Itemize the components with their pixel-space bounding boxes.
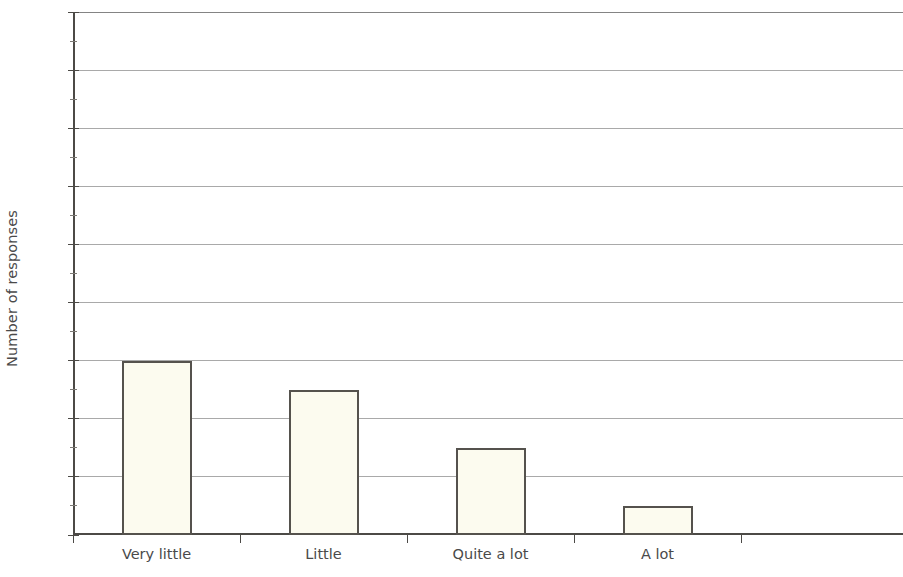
y-axis-tick: [68, 128, 79, 129]
gridline: [73, 302, 903, 303]
x-axis-tick: [73, 534, 74, 543]
x-axis-tick: [574, 534, 575, 543]
y-axis-tick: [68, 244, 79, 245]
y-axis-tick: [68, 186, 79, 187]
y-axis-minor-tick: [70, 389, 77, 390]
x-axis-tick-label: A lot: [641, 546, 674, 562]
x-axis-tick: [407, 534, 408, 543]
gridline: [73, 70, 903, 71]
x-axis-tick: [240, 534, 241, 543]
gridline: [73, 186, 903, 187]
gridline: [73, 128, 903, 129]
y-axis-title: Number of responses: [0, 0, 24, 577]
x-axis-tick: [741, 534, 742, 543]
y-axis-minor-tick: [70, 99, 77, 100]
y-axis-tick: [68, 302, 79, 303]
y-axis-minor-tick: [70, 157, 77, 158]
y-axis-minor-tick: [70, 447, 77, 448]
bar: [122, 361, 192, 535]
y-axis-tick: [68, 418, 79, 419]
plot-area: 024681012141618: [73, 12, 903, 535]
y-axis-tick: [68, 12, 79, 13]
bar: [456, 448, 526, 535]
y-axis-minor-tick: [70, 215, 77, 216]
bar-chart: Number of responses 024681012141618 Very…: [0, 0, 903, 577]
x-axis-tick-label: Little: [305, 546, 341, 562]
y-axis-minor-tick: [70, 331, 77, 332]
bar: [289, 390, 359, 535]
y-axis-minor-tick: [70, 273, 77, 274]
gridline: [73, 360, 903, 361]
y-axis-minor-tick: [70, 41, 77, 42]
x-axis-tick-label: Very little: [122, 546, 191, 562]
y-axis-tick: [68, 70, 79, 71]
x-axis-tick-label: Quite a lot: [453, 546, 529, 562]
y-axis-tick: [68, 360, 79, 361]
gridline: [73, 418, 903, 419]
y-axis-minor-tick: [70, 505, 77, 506]
bar: [623, 506, 693, 535]
gridline: [73, 244, 903, 245]
y-axis-tick: [68, 476, 79, 477]
gridline: [73, 12, 903, 13]
